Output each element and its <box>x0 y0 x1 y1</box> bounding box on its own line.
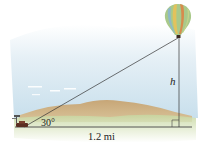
distance-label: 1.2 mi <box>88 131 115 142</box>
height-label: h <box>170 76 176 87</box>
angle-label: 30° <box>41 117 55 128</box>
diagram-figure: 30° h 1.2 mi <box>0 0 204 150</box>
